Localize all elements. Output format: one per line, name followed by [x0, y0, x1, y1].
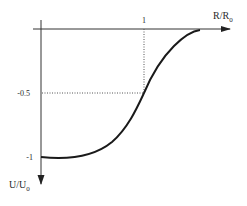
y-axis-label: U/U0	[9, 179, 30, 193]
function-curve	[41, 30, 200, 158]
x-tick-label-1: 1	[142, 16, 146, 25]
y-tick-label-one: -1	[26, 153, 33, 162]
y-tick-label-half: -0.5	[17, 89, 30, 98]
x-axis-label: R/R0	[213, 10, 233, 24]
diagram-canvas: 1 -0.5 -1 R/R0 U/U0	[0, 0, 247, 206]
